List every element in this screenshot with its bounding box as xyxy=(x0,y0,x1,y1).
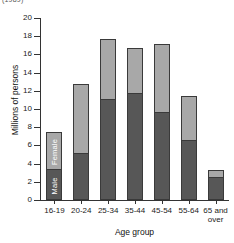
x-tick-label: 20-24 xyxy=(67,206,95,215)
x-axis-title: Age group xyxy=(40,227,229,237)
chart-figure: (1989) 02468101214161820 FemaleMale 16-1… xyxy=(0,0,234,243)
y-tick xyxy=(34,109,40,110)
bar-segment-male xyxy=(128,93,142,199)
x-tick xyxy=(162,200,163,204)
x-tick-label: 45-54 xyxy=(148,206,176,215)
y-tick xyxy=(34,200,40,201)
bar-16-19: FemaleMale xyxy=(46,132,62,200)
x-tick xyxy=(54,200,55,204)
y-tick xyxy=(34,127,40,128)
y-tick-label: 2 xyxy=(10,178,32,186)
x-tick xyxy=(108,200,109,204)
x-tick xyxy=(216,200,217,204)
bar-25-34 xyxy=(100,39,116,200)
bar-segment-male xyxy=(182,140,196,199)
y-tick xyxy=(34,18,40,19)
x-tick-label: 65 and over xyxy=(202,206,230,224)
y-tick xyxy=(34,182,40,183)
y-tick-label: 4 xyxy=(10,160,32,168)
bar-65-and-over xyxy=(208,170,224,200)
y-tick xyxy=(34,54,40,55)
x-tick xyxy=(135,200,136,204)
x-tick-label: 55-64 xyxy=(175,206,203,215)
y-tick-label: 20 xyxy=(10,14,32,22)
y-tick xyxy=(34,36,40,37)
bar-segment-male xyxy=(101,99,115,199)
y-axis-line xyxy=(40,18,41,201)
x-tick xyxy=(81,200,82,204)
bar-55-64 xyxy=(181,96,197,200)
x-tick xyxy=(189,200,190,204)
y-tick xyxy=(34,164,40,165)
y-tick xyxy=(34,91,40,92)
bar-segment-male xyxy=(209,177,223,199)
x-tick-label: 25-34 xyxy=(94,206,122,215)
bar-label-female: Female xyxy=(50,139,59,165)
bar-45-54 xyxy=(154,44,170,200)
y-tick xyxy=(34,73,40,74)
bar-20-24 xyxy=(73,84,89,200)
top-caption: (1989) xyxy=(2,0,23,3)
y-axis-title: Millions of persons xyxy=(10,40,20,160)
bar-label-male: Male xyxy=(50,177,59,194)
bar-segment-male xyxy=(74,153,88,199)
x-tick-label: 16-19 xyxy=(40,206,68,215)
bar-segment-male xyxy=(155,112,169,199)
y-tick-label: 18 xyxy=(10,32,32,40)
x-tick-label: 35-44 xyxy=(121,206,149,215)
bar-35-44 xyxy=(127,48,143,200)
y-tick-label: 0 xyxy=(10,196,32,204)
y-tick xyxy=(34,145,40,146)
